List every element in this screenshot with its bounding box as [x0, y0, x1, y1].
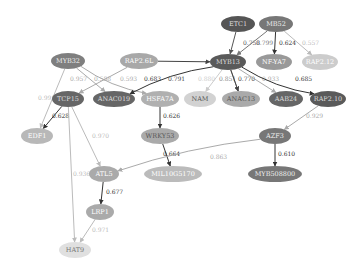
node-label: MYB508800	[255, 170, 296, 178]
node-label: NAM	[191, 95, 208, 103]
edge-weight-label: 0.628	[52, 112, 69, 119]
edge-weight-label: 0.933	[262, 75, 279, 82]
edge-weight-label: 0.624	[279, 39, 296, 46]
edge-weight-label: 0.626	[163, 112, 180, 119]
node-label: MB52	[266, 20, 286, 28]
gene-node-nam[interactable]: NAM	[184, 91, 216, 107]
edge-weight-label: 0.588	[94, 75, 111, 82]
edge-weight-label: 0.863	[210, 153, 227, 160]
edge-arrow	[274, 32, 275, 54]
edge-weight-label: 0.970	[92, 132, 109, 139]
node-label: HAT9	[66, 246, 84, 254]
gene-node-azf3[interactable]: AZF3	[259, 128, 291, 144]
gene-node-etc1[interactable]: ETC1	[221, 16, 255, 32]
edge-weight-label: 0.957	[70, 75, 87, 82]
node-label: ATL5	[94, 170, 112, 178]
gene-node-myb13[interactable]: MYB13	[210, 54, 246, 70]
node-label: ANAC019	[97, 95, 130, 103]
gene-node-lrp1[interactable]: LRP1	[86, 204, 114, 220]
gene-node-mil[interactable]: MIL10G5170	[144, 166, 202, 182]
node-label: NF-YA7	[262, 58, 286, 66]
gene-node-anac019[interactable]: ANAC019	[93, 91, 135, 107]
edge-weight-label: 0.677	[106, 188, 123, 195]
node-label: WRKY53	[146, 132, 175, 140]
gene-node-edf1[interactable]: EDF1	[21, 128, 53, 144]
node-label: ETC1	[229, 20, 247, 28]
gene-node-wrky53[interactable]: WRKY53	[141, 128, 179, 144]
edge-weight-label: 0.936	[73, 170, 90, 177]
gene-node-aab24[interactable]: AAB24	[269, 91, 303, 107]
edge-arrow	[230, 32, 236, 54]
node-label: ANAC13	[226, 95, 255, 103]
node-label: MYB13	[216, 58, 240, 66]
gene-node-myb32[interactable]: MYB32	[51, 53, 85, 69]
network-diagram: 0.7580.7990.6240.5570.9910.9570.5930.588…	[0, 0, 364, 275]
edge-arrow	[118, 139, 261, 171]
node-label: LRP1	[91, 208, 109, 216]
gene-node-anac13[interactable]: ANAC13	[222, 91, 260, 107]
edge-arrow	[101, 182, 103, 204]
gene-node-rap26l[interactable]: RAP2.6L	[120, 53, 158, 69]
node-label: RAP2.6L	[125, 57, 154, 65]
edge-weight-label: 0.971	[92, 226, 109, 233]
gene-node-myb[interactable]: MYB508800	[248, 166, 302, 182]
edge-weight-label: 0.880	[198, 75, 215, 82]
gene-node-mb52[interactable]: MB52	[259, 16, 293, 32]
gene-node-nfya7[interactable]: NF-YA7	[256, 54, 292, 70]
node-label: MYB32	[56, 57, 80, 65]
node-label: RAP2.12	[306, 58, 334, 66]
edge-weight-label: 0.593	[120, 75, 137, 82]
edge-arrow	[158, 61, 210, 62]
edge-weight-label: 0.610	[278, 150, 295, 157]
node-label: AZF3	[265, 132, 284, 140]
gene-node-rap210[interactable]: RAP2.10	[310, 91, 346, 107]
edge-weight-label: 0.557	[302, 39, 319, 46]
edge-weight-label: 0.683	[144, 75, 161, 82]
gene-node-tcp15[interactable]: TCP15	[52, 91, 84, 107]
node-label: HSFA7A	[146, 95, 174, 103]
node-label: TCP15	[57, 95, 79, 103]
node-label: AAB24	[274, 95, 297, 103]
gene-node-atl5[interactable]: ATL5	[89, 166, 119, 182]
gene-node-rap212[interactable]: RAP2.12	[302, 54, 338, 70]
edge-weight-label: 0.799	[256, 39, 273, 46]
gene-node-hsfa7a[interactable]: HSFA7A	[141, 91, 179, 107]
node-label: RAP2.10	[314, 95, 342, 103]
gene-node-hat9[interactable]: HAT9	[59, 242, 91, 258]
node-label: MIL10G5170	[151, 170, 195, 178]
node-label: EDF1	[28, 132, 47, 140]
edge-weight-label: 0.929	[306, 112, 323, 119]
edge-weight-label: 0.770	[238, 75, 255, 82]
edge-weight-label: 0.685	[295, 75, 312, 82]
